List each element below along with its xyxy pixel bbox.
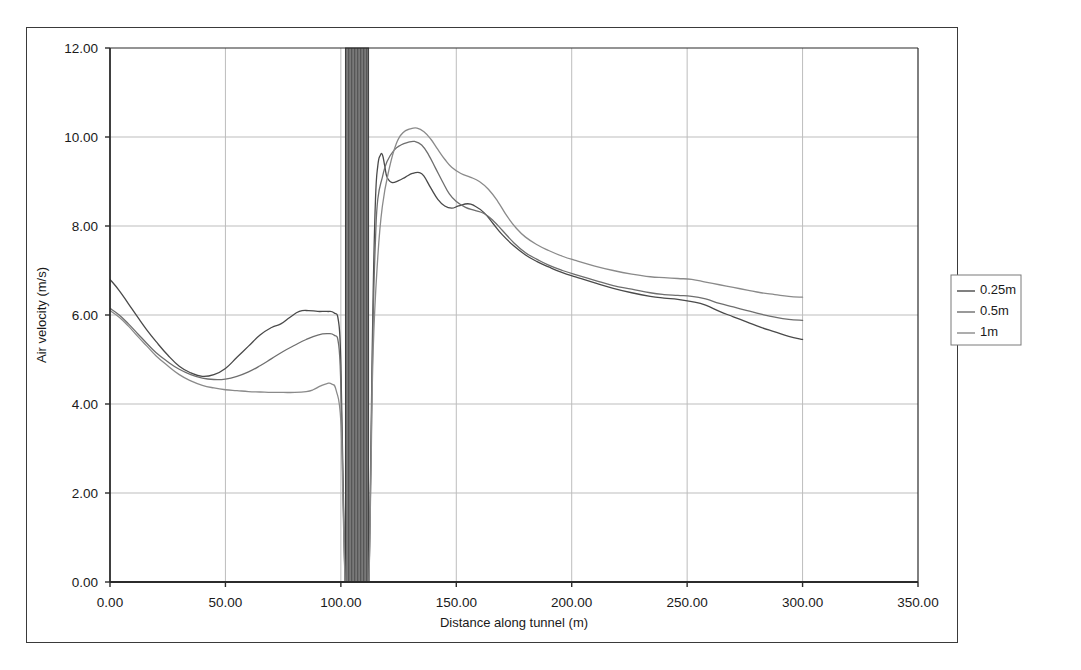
x-tick-label: 350.00 bbox=[897, 595, 938, 610]
series-line-1m bbox=[110, 311, 345, 582]
legend-label-0.25m: 0.25m bbox=[980, 282, 1016, 297]
axis-frame bbox=[105, 48, 918, 587]
y-axis-tick-labels: 0.002.004.006.008.0010.0012.00 bbox=[64, 41, 98, 590]
y-tick-label: 0.00 bbox=[72, 575, 98, 590]
air-velocity-line-chart: 0.002.004.006.008.0010.0012.00 0.0050.00… bbox=[0, 0, 1081, 670]
legend: 0.25m0.5m1m bbox=[951, 275, 1021, 345]
y-tick-label: 8.00 bbox=[72, 219, 98, 234]
series-line-0.5m bbox=[369, 141, 803, 582]
y-tick-label: 12.00 bbox=[64, 41, 98, 56]
y-tick-label: 4.00 bbox=[72, 397, 98, 412]
legend-label-1m: 1m bbox=[980, 324, 998, 339]
y-tick-label: 2.00 bbox=[72, 486, 98, 501]
series-line-1m bbox=[369, 128, 803, 582]
x-tick-label: 0.00 bbox=[97, 595, 123, 610]
x-tick-label: 300.00 bbox=[782, 595, 823, 610]
grid-lines bbox=[110, 48, 918, 582]
tunnel-obstruction-band bbox=[345, 48, 368, 582]
series-line-0.25m bbox=[110, 279, 345, 582]
x-tick-label: 100.00 bbox=[320, 595, 361, 610]
x-axis-title: Distance along tunnel (m) bbox=[440, 615, 588, 630]
series-line-0.25m bbox=[369, 153, 803, 582]
legend-label-0.5m: 0.5m bbox=[980, 303, 1009, 318]
tunnel-obstruction-rect bbox=[345, 48, 368, 582]
x-tick-label: 250.00 bbox=[666, 595, 707, 610]
y-tick-label: 10.00 bbox=[64, 130, 98, 145]
x-axis-tick-labels: 0.0050.00100.00150.00200.00250.00300.003… bbox=[97, 595, 939, 610]
x-tick-label: 50.00 bbox=[209, 595, 243, 610]
series-line-0.5m bbox=[110, 308, 345, 582]
x-tick-label: 200.00 bbox=[551, 595, 592, 610]
y-axis-title: Air velocity (m/s) bbox=[34, 267, 49, 363]
y-tick-label: 6.00 bbox=[72, 308, 98, 323]
x-tick-label: 150.00 bbox=[436, 595, 477, 610]
